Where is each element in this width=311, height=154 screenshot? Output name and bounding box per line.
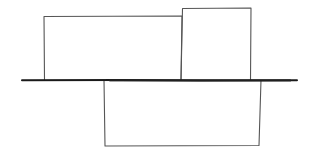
- box-bottom: [104, 80, 261, 146]
- box-top-left: [44, 16, 182, 80]
- box-top-right: [181, 8, 251, 80]
- sketch-diagram: [0, 0, 311, 154]
